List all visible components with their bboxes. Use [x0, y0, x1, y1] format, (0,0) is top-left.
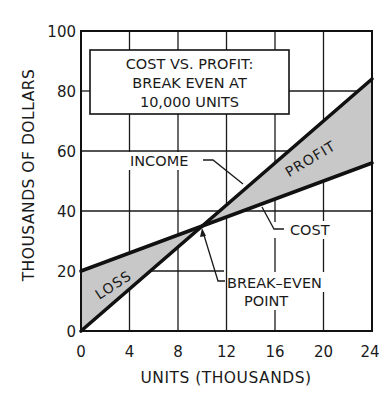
x-tick-4: 4: [125, 343, 135, 361]
x-tick-8: 8: [173, 343, 183, 361]
income-leader: [203, 160, 243, 184]
y-tick-60: 60: [57, 143, 76, 161]
x-tick-12: 12: [217, 343, 236, 361]
x-tick-0: 0: [76, 343, 86, 361]
y-tick-80: 80: [57, 83, 76, 101]
cost-label: COST: [290, 222, 330, 238]
title-line-2: BREAK EVEN AT: [132, 75, 247, 91]
y-axis-title: THOUSANDS OF DOLLARS: [20, 69, 38, 283]
break-even-leader: [203, 232, 225, 281]
cost-leader: [262, 207, 284, 229]
y-tick-100: 100: [47, 23, 76, 41]
y-tick-0: 0: [66, 323, 76, 341]
x-axis-title: UNITS (THOUSANDS): [140, 369, 311, 387]
x-tick-24: 24: [360, 343, 379, 361]
income-label: INCOME: [130, 153, 188, 169]
break-even-label-line-1: BREAK–EVEN: [227, 275, 322, 291]
y-tick-labels: 0 20 40 60 80 100: [47, 23, 76, 341]
break-even-label-line-2: POINT: [244, 293, 288, 309]
x-tick-labels: 0 4 8 12 16 20 24: [76, 343, 379, 361]
y-tick-40: 40: [57, 203, 76, 221]
y-tick-20: 20: [57, 263, 76, 281]
title-line-3: 10,000 UNITS: [140, 94, 239, 110]
x-tick-20: 20: [314, 343, 333, 361]
break-even-chart: COST VS. PROFIT: BREAK EVEN AT 10,000 UN…: [0, 0, 392, 400]
x-tick-16: 16: [265, 343, 284, 361]
title-line-1: COST VS. PROFIT:: [126, 56, 254, 72]
